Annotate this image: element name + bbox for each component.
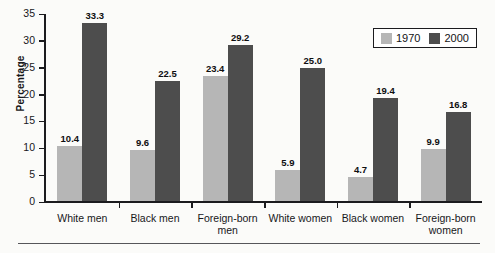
- x-axis-category-label: Black men: [119, 212, 192, 224]
- bar-2000: 25.0: [300, 68, 325, 202]
- bar-chart-figure: Percentage 05101520253035 10.433.39.622.…: [0, 0, 495, 253]
- bar-2000: 29.2: [228, 45, 253, 202]
- y-tick-label: 15: [5, 114, 35, 126]
- x-axis-category-label: White men: [46, 212, 119, 224]
- x-label-line: Black men: [119, 212, 192, 224]
- x-tick-mark: [337, 203, 339, 208]
- legend-entry-1970[interactable]: 1970: [381, 32, 420, 44]
- bar-value-label: 19.4: [376, 85, 395, 96]
- bar-2000: 19.4: [373, 98, 398, 202]
- x-axis-category-label: White women: [264, 212, 337, 224]
- x-axis-category-label: Black women: [337, 212, 410, 224]
- x-tick-mark: [409, 203, 411, 208]
- x-label-line: White women: [264, 212, 337, 224]
- y-tick-mark: [39, 40, 44, 42]
- bar-1970: 5.9: [275, 170, 300, 202]
- bar-value-label: 23.4: [206, 63, 225, 74]
- bar-2000: 33.3: [82, 23, 107, 202]
- y-tick-mark: [39, 14, 44, 16]
- y-tick-mark: [39, 94, 44, 96]
- bar-1970: 9.9: [421, 149, 446, 202]
- bar-2000: 16.8: [446, 112, 471, 202]
- bar-value-label: 4.7: [354, 164, 367, 175]
- legend-label: 1970: [396, 32, 420, 44]
- y-tick-label: 25: [5, 61, 35, 73]
- x-label-line: White men: [46, 212, 119, 224]
- bar-pair: 9.622.5: [119, 14, 192, 202]
- bar-value-label: 22.5: [158, 68, 177, 79]
- x-label-line: Foreign-born: [409, 212, 482, 224]
- bar-value-label: 9.9: [427, 136, 440, 147]
- bar-value-label: 5.9: [281, 157, 294, 168]
- bar-2000: 22.5: [155, 81, 180, 202]
- bar-pair: 5.925.0: [264, 14, 337, 202]
- bar-pair: 23.429.2: [191, 14, 264, 202]
- bar-group: 10.433.3: [46, 14, 119, 202]
- x-tick-mark: [191, 203, 193, 208]
- y-tick-mark: [39, 148, 44, 150]
- x-axis-line: [44, 201, 482, 203]
- legend-swatch-icon: [429, 33, 440, 44]
- y-tick-mark: [39, 67, 44, 69]
- x-tick-mark: [264, 203, 266, 208]
- x-label-line: men: [191, 224, 264, 236]
- y-tick-label: 35: [5, 7, 35, 19]
- bar-value-label: 10.4: [61, 133, 80, 144]
- bar-value-label: 16.8: [449, 99, 468, 110]
- bar-group: 23.429.2: [191, 14, 264, 202]
- bar-value-label: 25.0: [304, 55, 323, 66]
- bar-value-label: 33.3: [86, 10, 105, 21]
- y-tick-label: 0: [5, 195, 35, 207]
- legend-entry-2000[interactable]: 2000: [429, 32, 468, 44]
- legend-swatch-icon: [381, 33, 392, 44]
- bar-1970: 10.4: [57, 146, 82, 202]
- y-tick-label: 5: [5, 168, 35, 180]
- x-label-line: women: [409, 224, 482, 236]
- y-tick-label: 20: [5, 88, 35, 100]
- bar-value-label: 9.6: [136, 137, 149, 148]
- legend-label: 2000: [444, 32, 468, 44]
- x-label-line: Black women: [337, 212, 410, 224]
- bar-group: 5.925.0: [264, 14, 337, 202]
- y-tick-label: 10: [5, 141, 35, 153]
- x-label-line: Foreign-born: [191, 212, 264, 224]
- bar-pair: 10.433.3: [46, 14, 119, 202]
- footer-divider: [18, 243, 480, 244]
- bar-1970: 23.4: [203, 76, 228, 202]
- x-tick-mark: [119, 203, 121, 208]
- x-axis-category-label: Foreign-bornwomen: [409, 212, 482, 236]
- y-tick-mark: [39, 121, 44, 123]
- y-tick-label: 30: [5, 34, 35, 46]
- bar-1970: 4.7: [348, 177, 373, 202]
- x-axis-category-label: Foreign-bornmen: [191, 212, 264, 236]
- bar-1970: 9.6: [130, 150, 155, 202]
- y-tick-mark: [39, 175, 44, 177]
- chart-legend: 19702000: [373, 28, 477, 48]
- bar-value-label: 29.2: [231, 32, 250, 43]
- bar-group: 9.622.5: [119, 14, 192, 202]
